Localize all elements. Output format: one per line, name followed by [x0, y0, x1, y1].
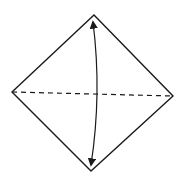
origami-diagram [0, 0, 186, 186]
diagram-canvas [0, 0, 186, 186]
paper-square-diamond [12, 15, 173, 171]
